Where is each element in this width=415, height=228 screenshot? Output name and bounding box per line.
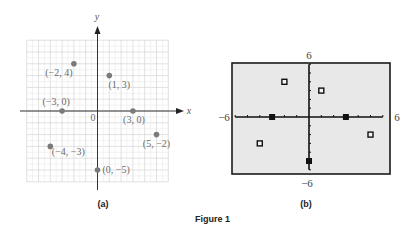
figure-canvas: xy0(−2, 4)(1, 3)(−3, 0)(3, 0)(5, −2)(−4,… (0, 0, 415, 228)
panel-a-coordinate-grid: xy0(−2, 4)(1, 3)(−3, 0)(3, 0)(5, −2)(−4,… (20, 11, 192, 190)
ymin-label: −6 (301, 177, 313, 189)
hollow-square-marker-icon (282, 79, 287, 84)
hollow-square-marker-icon (368, 132, 373, 137)
xmax-label: 6 (394, 111, 400, 123)
filled-square-marker-icon (269, 114, 275, 120)
point-label: (−2, 4) (45, 67, 72, 79)
y-axis-label: y (94, 11, 100, 22)
hollow-square-marker-icon (319, 88, 324, 93)
ymax-label: 6 (306, 49, 312, 61)
point-dot-icon (59, 108, 65, 114)
point-dot-icon (71, 61, 77, 67)
hollow-square-marker-icon (257, 141, 262, 146)
filled-square-marker-icon (343, 114, 349, 120)
y-axis-arrow-icon (95, 26, 101, 34)
x-axis-arrow-icon (176, 108, 184, 114)
point-label: (3, 0) (123, 114, 145, 126)
data-point: (−4, −3) (48, 144, 85, 159)
x-axis-label: x (186, 105, 192, 116)
point-dot-icon (154, 132, 160, 138)
xmin-label: −6 (218, 111, 230, 123)
point-label: (0, −5) (103, 164, 130, 176)
point-label: (5, −2) (143, 138, 170, 150)
point-dot-icon (130, 108, 136, 114)
figure-caption: Figure 1 (195, 214, 230, 224)
point-label: (1, 3) (108, 79, 130, 91)
panel-a-label: (a) (98, 199, 109, 209)
point-label: (−3, 0) (42, 96, 69, 108)
panel-b-label: (b) (300, 199, 312, 209)
point-dot-icon (107, 73, 113, 79)
viewing-window-frame (232, 63, 390, 174)
point-label: (−4, −3) (52, 146, 85, 158)
panel-b-calculator-window: 6−6−66 (218, 49, 400, 189)
filled-square-marker-icon (306, 158, 312, 164)
point-dot-icon (95, 167, 101, 173)
origin-label: 0 (91, 112, 96, 123)
data-point: (0, −5) (95, 164, 130, 176)
